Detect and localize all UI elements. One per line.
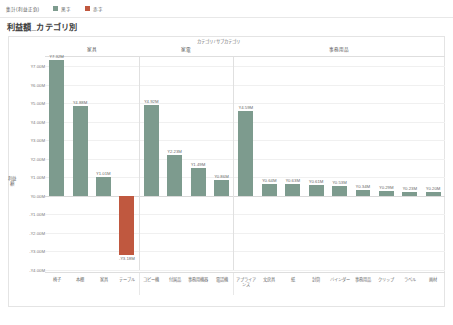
- panel-header-band: 家具家電事務用品: [45, 44, 445, 57]
- plot-panels: ¥7.32M¥4.88M¥1.01M-¥3.18M¥4.92M¥2.23M¥1.…: [45, 57, 445, 270]
- y-tick-label: -¥2.00M: [29, 230, 45, 235]
- bar[interactable]: [96, 177, 111, 196]
- bar-slot: ¥0.64M: [258, 57, 281, 270]
- x-axis-panel-3: アプライアンス文房具紙封筒バインダー事務用品クリップラベル画材: [233, 273, 445, 295]
- bar[interactable]: [285, 184, 300, 196]
- bar-slot: ¥7.32M: [45, 57, 68, 270]
- y-tick-label: -¥4.00M: [29, 268, 45, 273]
- panel-header-label: 事務用品: [329, 46, 349, 52]
- x-axis-label[interactable]: 電話機: [210, 273, 233, 295]
- bar-slot: ¥1.01M: [92, 57, 115, 270]
- x-axis-label[interactable]: ラベル: [398, 273, 421, 295]
- y-tick-label: ¥1.00M: [31, 175, 45, 180]
- bar[interactable]: [73, 106, 88, 196]
- y-tick-label: ¥5.00M: [31, 101, 45, 106]
- x-axis-label[interactable]: 事務用機器: [186, 273, 209, 295]
- x-axis-label[interactable]: テーブル: [115, 273, 138, 295]
- bar-value-label: ¥7.32M: [50, 54, 64, 59]
- bar[interactable]: [191, 168, 206, 196]
- bar-slot: ¥0.20M: [422, 57, 445, 270]
- panel-header-3: 事務用品: [233, 44, 445, 57]
- bar[interactable]: [309, 185, 324, 196]
- y-tick-label: -¥1.00M: [29, 212, 45, 217]
- bar-value-label: ¥4.88M: [73, 100, 87, 105]
- bar-slot: ¥0.53M: [328, 57, 351, 270]
- bar[interactable]: [356, 190, 371, 196]
- bar[interactable]: [402, 192, 417, 196]
- legend-swatch-negative: [85, 6, 90, 11]
- bar-slot: -¥3.18M: [115, 57, 138, 270]
- bar-slot: ¥0.63M: [281, 57, 304, 270]
- panel-header-label: 家電: [181, 46, 191, 52]
- y-tick-label: ¥6.00M: [31, 82, 45, 87]
- legend-swatch-positive: [53, 6, 58, 11]
- bar[interactable]: [332, 186, 347, 196]
- legend-item-negative[interactable]: 赤字: [85, 6, 103, 12]
- bar[interactable]: [238, 111, 253, 196]
- bar-value-label: ¥2.23M: [168, 149, 182, 154]
- bar-slot: ¥0.34M: [351, 57, 374, 270]
- bar-slot: ¥0.61M: [305, 57, 328, 270]
- x-axis-labels: 椅子本棚家具テーブルコピー機付属品事務用機器電話機アプライアンス文房具紙封筒バイ…: [45, 272, 445, 295]
- bar-slot: ¥0.29M: [375, 57, 398, 270]
- bar-slot: ¥1.49M: [186, 57, 209, 270]
- x-axis-label[interactable]: 封筒: [305, 273, 328, 295]
- x-axis-label[interactable]: バインダー: [328, 273, 351, 295]
- bar[interactable]: [262, 184, 277, 196]
- bar-value-label: ¥0.23M: [403, 186, 417, 191]
- bar[interactable]: [379, 191, 394, 196]
- panel-inner: ¥7.32M¥4.88M¥1.01M-¥3.18M: [45, 57, 139, 270]
- panel-2: ¥4.92M¥2.23M¥1.49M¥0.86M: [139, 57, 234, 270]
- x-axis-label[interactable]: 付属品: [163, 273, 186, 295]
- bar-slot: ¥0.23M: [398, 57, 421, 270]
- bar-value-label: ¥1.01M: [96, 171, 110, 176]
- bar-slot: ¥4.59M: [234, 57, 257, 270]
- x-axis-label[interactable]: アプライアンス: [234, 273, 257, 295]
- bar[interactable]: [119, 196, 134, 255]
- panel-inner: ¥4.59M¥0.64M¥0.63M¥0.61M¥0.53M¥0.34M¥0.2…: [234, 57, 445, 270]
- y-tick-label: ¥0.00M: [31, 193, 45, 198]
- bar-value-label: ¥0.63M: [286, 178, 300, 183]
- bar[interactable]: [426, 192, 441, 196]
- panel-1: ¥7.32M¥4.88M¥1.01M-¥3.18M: [45, 57, 139, 270]
- x-axis-label[interactable]: 椅子: [45, 273, 68, 295]
- panel-3: ¥4.59M¥0.64M¥0.63M¥0.61M¥0.53M¥0.34M¥0.2…: [233, 57, 445, 270]
- bar-value-label: ¥0.20M: [426, 186, 440, 191]
- x-axis-label[interactable]: 事務用品: [351, 273, 374, 295]
- bar-value-label: ¥0.34M: [356, 184, 370, 189]
- y-axis-ticks: ¥7.00M¥6.00M¥5.00M¥4.00M¥3.00M¥2.00M¥1.0…: [14, 0, 45, 325]
- x-axis-label[interactable]: 家具: [92, 273, 115, 295]
- bar[interactable]: [144, 105, 159, 196]
- x-axis-label[interactable]: クリップ: [375, 273, 398, 295]
- chart-page: 集計(利益正負) 黒字 赤字 利益額_カテゴリ別 カテゴリ / サブカテゴリ 家…: [0, 0, 453, 325]
- bar-slot: ¥2.23M: [163, 57, 186, 270]
- y-tick-label: ¥7.00M: [31, 64, 45, 69]
- bar-value-label: ¥4.59M: [239, 105, 253, 110]
- x-axis-label[interactable]: 画材: [422, 273, 445, 295]
- x-axis-label[interactable]: 本棚: [68, 273, 91, 295]
- bar-slot: ¥0.86M: [210, 57, 233, 270]
- legend-label-negative: 赤字: [93, 6, 103, 12]
- x-axis-label[interactable]: 文房具: [258, 273, 281, 295]
- bar[interactable]: [167, 155, 182, 196]
- bar[interactable]: [49, 60, 64, 196]
- bar-slot: ¥4.92M: [140, 57, 163, 270]
- x-axis-label[interactable]: コピー機: [140, 273, 163, 295]
- bar[interactable]: [214, 180, 229, 196]
- panel-header-2: 家電: [139, 44, 233, 57]
- y-tick-label: ¥3.00M: [31, 138, 45, 143]
- legend-bar: 集計(利益正負) 黒字 赤字: [0, 0, 453, 18]
- bar-value-label: ¥1.49M: [191, 162, 205, 167]
- bar-value-label: ¥0.61M: [309, 179, 323, 184]
- x-axis-label[interactable]: 紙: [281, 273, 304, 295]
- y-tick-label: -¥3.00M: [29, 249, 45, 254]
- y-tick-label: ¥2.00M: [31, 156, 45, 161]
- legend-item-positive[interactable]: 黒字: [53, 6, 71, 12]
- bar-value-label: ¥4.92M: [144, 99, 158, 104]
- bar-value-label: ¥0.64M: [262, 178, 276, 183]
- x-axis-panel-1: 椅子本棚家具テーブル: [45, 273, 139, 295]
- bar-value-label: ¥0.86M: [214, 174, 228, 179]
- bar-value-label: ¥0.29M: [379, 185, 393, 190]
- bar-slot: ¥4.88M: [68, 57, 91, 270]
- bar-value-label: -¥3.18M: [119, 256, 135, 261]
